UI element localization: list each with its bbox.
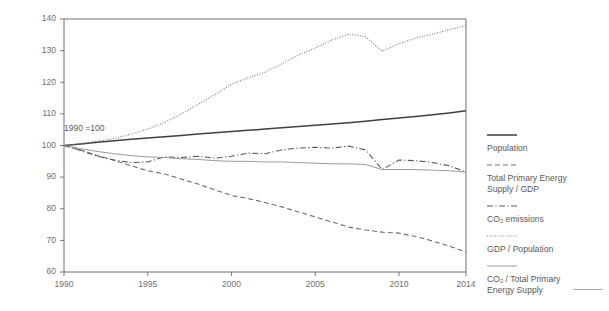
legend-item[interactable]: Population: [487, 131, 605, 154]
y-tick-label: 70: [47, 235, 57, 245]
series-line: [64, 146, 466, 173]
x-tick-label: 2000: [222, 279, 241, 289]
legend-swatch: [487, 262, 517, 270]
chart-container: 60708090100110120130140 1990199520002005…: [0, 0, 609, 311]
x-tick-label: 2005: [306, 279, 325, 289]
y-tick-label: 90: [47, 171, 57, 181]
legend-label: CO₂ / Total Primary Energy Supply: [487, 274, 605, 296]
y-tick-label: 60: [47, 266, 57, 276]
legend-item[interactable]: CO₂ emissions: [487, 202, 605, 225]
y-tick-label: 140: [42, 13, 56, 23]
chart-legend: PopulationTotal Primary Energy Supply / …: [487, 131, 605, 303]
x-tick-label: 1990: [55, 279, 74, 289]
legend-label: Total Primary Energy Supply / GDP: [487, 173, 605, 195]
x-tick-label: 1995: [138, 279, 157, 289]
legend-swatch: [487, 161, 517, 169]
legend-item[interactable]: GDP / Population: [487, 232, 605, 255]
y-tick-label: 130: [42, 45, 56, 55]
y-tick-label: 80: [47, 203, 57, 213]
corner-rule: [573, 289, 603, 290]
y-tick-label: 120: [42, 77, 56, 87]
legend-swatch: [487, 232, 517, 240]
series-line: [64, 111, 466, 146]
y-tick-label: 100: [42, 140, 56, 150]
legend-item[interactable]: Total Primary Energy Supply / GDP: [487, 161, 605, 195]
legend-swatch: [487, 131, 517, 139]
y-tick-label: 110: [42, 108, 56, 118]
x-tick-label: 2010: [390, 279, 409, 289]
y-axis: 60708090100110120130140: [42, 13, 64, 276]
x-axis: 199019952000200520102014: [55, 272, 476, 289]
legend-item[interactable]: CO₂ / Total Primary Energy Supply: [487, 262, 605, 296]
legend-label: Population: [487, 143, 605, 154]
legend-label: CO₂ emissions: [487, 214, 605, 225]
legend-swatch: [487, 202, 517, 210]
series-line: [64, 25, 466, 145]
data-series-group: [64, 25, 466, 252]
legend-label: GDP / Population: [487, 244, 605, 255]
series-line: [64, 146, 466, 173]
x-tick-label: 2014: [457, 279, 476, 289]
baseline-annotation: 1990 =100: [64, 123, 105, 133]
